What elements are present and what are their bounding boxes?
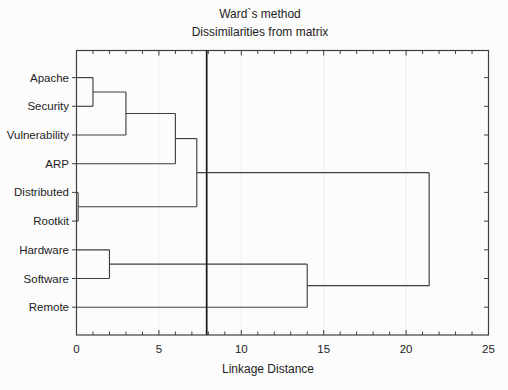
x-tick-label: 10: [235, 343, 248, 355]
x-tick-label: 25: [482, 343, 495, 355]
dendrogram-svg: Ward`s method Dissimilarities from matri…: [0, 0, 508, 390]
plot-frame: [77, 51, 489, 336]
x-axis-label: Linkage Distance: [222, 362, 314, 376]
chart-title: Ward`s method: [219, 7, 301, 21]
chart-subtitle: Dissimilarities from matrix: [192, 25, 329, 39]
leaf-label: Remote: [29, 301, 69, 313]
x-tick-label: 0: [73, 343, 79, 355]
leaf-label: Apache: [30, 72, 69, 84]
leaf-label: Rootkit: [33, 215, 70, 227]
leaf-label: Software: [24, 273, 69, 285]
figure-container: Ward`s method Dissimilarities from matri…: [0, 0, 508, 390]
leaf-label: Distributed: [14, 186, 69, 198]
x-tick-label: 15: [317, 343, 330, 355]
leaf-label: ARP: [45, 158, 69, 170]
leaf-label: Hardware: [19, 244, 69, 256]
x-tick-label: 5: [156, 343, 162, 355]
x-tick-label: 20: [400, 343, 413, 355]
leaf-label: Vulnerability: [7, 129, 69, 141]
leaf-label: Security: [27, 100, 69, 112]
plot-area: 0510152025ApacheSecurityVulnerabilityARP…: [7, 51, 495, 356]
